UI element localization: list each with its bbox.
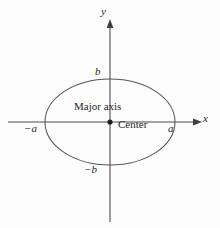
vertex-right-label: a (168, 123, 174, 134)
center-point-marker (107, 119, 112, 124)
covertex-bottom-label: −b (84, 164, 97, 175)
y-axis-arrow-icon (107, 19, 114, 28)
y-axis-label: y (101, 6, 106, 17)
vertex-left-label: −a (24, 123, 37, 134)
covertex-top-label: b (95, 66, 101, 77)
x-axis-arrow-icon (193, 119, 202, 126)
x-axis-label: x (203, 113, 208, 124)
major-axis-label: Major axis (74, 101, 121, 112)
figure-canvas (0, 0, 220, 228)
center-label: Center (118, 119, 147, 130)
ellipse-figure: y x b −b −a a Major axis Center (0, 0, 220, 228)
